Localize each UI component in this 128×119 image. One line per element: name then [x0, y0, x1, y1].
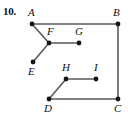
vertex-dot-g [77, 41, 82, 46]
vertex-label-b: B [113, 6, 120, 18]
edge-F-E [33, 43, 49, 62]
vertex-label-g: G [75, 25, 83, 37]
edge-D-H [49, 79, 66, 99]
vertex-dot-a [30, 22, 35, 27]
vertex-label-f: F [46, 25, 54, 37]
vertex-label-e: E [27, 65, 35, 77]
vertex-label-d: D [43, 102, 52, 114]
vertex-dot-d [47, 97, 52, 102]
vertex-dot-b [116, 22, 121, 27]
vertex-label-i: I [93, 61, 99, 73]
vertex-dot-i [94, 77, 99, 82]
vertex-label-c: C [114, 102, 122, 114]
vertex-labels-group: ABCDEFGHI [27, 6, 122, 114]
vertex-dot-f [47, 41, 52, 46]
geometry-figure: 10. ABCDEFGHI [0, 0, 128, 119]
vertex-dot-h [64, 77, 69, 82]
vertex-dot-c [116, 97, 121, 102]
vertex-dot-e [31, 60, 36, 65]
vertex-label-a: A [27, 6, 35, 18]
figure-canvas: ABCDEFGHI [0, 0, 128, 119]
vertex-label-h: H [61, 61, 71, 73]
